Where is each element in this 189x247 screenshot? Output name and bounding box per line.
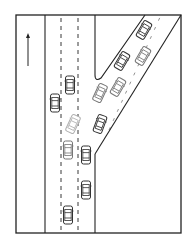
car-mirror-right xyxy=(149,55,150,56)
diagram-canvas xyxy=(0,0,189,247)
car-mirror-left xyxy=(140,50,141,51)
car-mirror-right xyxy=(128,60,129,61)
car-mirror-left xyxy=(141,24,142,25)
car-main-6 xyxy=(63,206,74,224)
car-main-1 xyxy=(65,76,76,94)
car-mirror-right xyxy=(150,29,151,30)
car-mirror-left xyxy=(115,81,116,82)
road-merge-diagram: road-merge-illustration xyxy=(0,0,189,247)
car-mirror-left xyxy=(119,55,120,56)
car-mirror-right xyxy=(124,86,125,87)
car-main-2 xyxy=(50,94,61,112)
car-main-5 xyxy=(81,181,92,199)
car-main-3 xyxy=(63,141,74,159)
car-main-4 xyxy=(81,146,92,164)
diagram-type-label: road-merge-illustration xyxy=(0,236,189,242)
